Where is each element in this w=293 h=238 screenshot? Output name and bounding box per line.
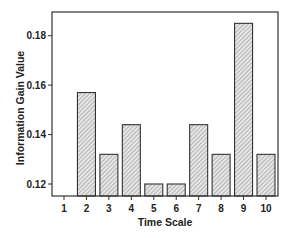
x-tick-label: 10: [260, 203, 272, 214]
x-axis-title: Time Scale: [138, 216, 193, 228]
bar-10: [257, 154, 275, 196]
bars-group: [77, 23, 275, 196]
x-tick-label: 1: [61, 203, 67, 214]
x-tick-label: 2: [84, 203, 90, 214]
bar-6: [167, 184, 185, 196]
x-tick-label: 7: [196, 203, 202, 214]
x-tick-label: 6: [173, 203, 179, 214]
y-tick-label: 0.14: [27, 129, 47, 140]
bar-5: [145, 184, 163, 196]
bar-chart: 0.120.140.160.18 12345678910 Time Scale …: [0, 0, 293, 238]
y-tick-label: 0.18: [27, 30, 47, 41]
bar-3: [100, 154, 118, 196]
y-axis-ticks: 0.120.140.160.18: [27, 30, 52, 189]
bar-9: [235, 23, 253, 196]
x-tick-label: 4: [129, 203, 135, 214]
y-axis-title: Information Gain Value: [14, 51, 26, 166]
bar-4: [122, 125, 140, 196]
y-tick-label: 0.16: [27, 80, 47, 91]
x-tick-label: 9: [241, 203, 247, 214]
x-tick-label: 3: [106, 203, 112, 214]
bar-2: [77, 93, 95, 196]
y-tick-label: 0.12: [27, 179, 47, 190]
x-tick-label: 8: [218, 203, 224, 214]
bar-7: [190, 125, 208, 196]
bar-8: [212, 154, 230, 196]
x-axis-ticks: 12345678910: [61, 196, 272, 214]
x-tick-label: 5: [151, 203, 157, 214]
